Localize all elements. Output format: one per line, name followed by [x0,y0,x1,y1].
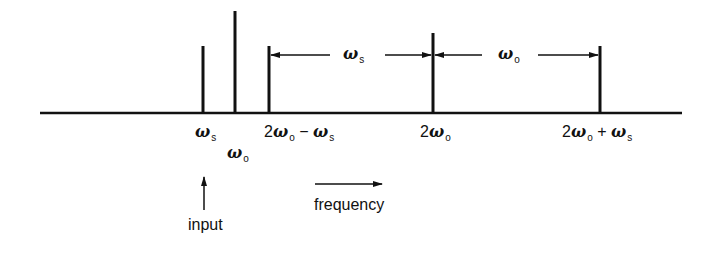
omega-symbol: ω [498,44,513,63]
omega-symbol: ω [571,122,586,141]
spacing-label-ws: ωs [343,44,364,65]
subscript: o [514,54,520,65]
label-wo: ωo [227,143,249,164]
omega-symbol: ω [195,122,210,141]
subscript: s [359,54,364,65]
omega-symbol: ω [343,44,358,63]
coefficient: 2 [562,123,571,140]
omega-symbol: ω [227,143,242,162]
spacing-label-wo: ωo [498,44,520,65]
omega-symbol: ω [313,122,328,141]
label-2wo: 2ωo [420,122,451,143]
label-ws: ωs [195,122,216,143]
coefficient: 2 [264,123,273,140]
input-label: input [188,216,223,234]
plus-sign: + [593,123,611,140]
subscript: s [329,132,334,143]
omega-symbol: ω [273,122,288,141]
subscript: s [627,132,632,143]
omega-symbol: ω [611,122,626,141]
label-2wo-plus-ws: 2ωo + ωs [562,122,632,143]
subscript: s [211,132,216,143]
omega-symbol: ω [429,122,444,141]
minus-sign: − [295,123,313,140]
label-2wo-minus-ws: 2ωo − ωs [264,122,334,143]
subscript: o [243,153,249,164]
frequency-label: frequency [314,196,384,214]
subscript: o [445,132,451,143]
coefficient: 2 [420,123,429,140]
